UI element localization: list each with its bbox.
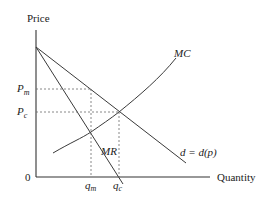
- mr-label: MR: [100, 145, 117, 157]
- origin-label: 0: [25, 171, 31, 183]
- pm-label: Pm: [16, 82, 30, 97]
- demand-label: d = d(p): [180, 146, 217, 159]
- monopoly-diagram: Price Quantity 0 d = d(p) MR MC Pm Pc qm…: [0, 0, 266, 199]
- x-axis-label: Quantity: [217, 171, 256, 183]
- mr-curve: [36, 47, 123, 184]
- mc-label: MC: [173, 47, 191, 59]
- y-axis-label: Price: [27, 12, 50, 24]
- pc-label: Pc: [16, 105, 28, 120]
- mc-curve: [53, 58, 176, 153]
- qm-label: qm: [85, 179, 97, 193]
